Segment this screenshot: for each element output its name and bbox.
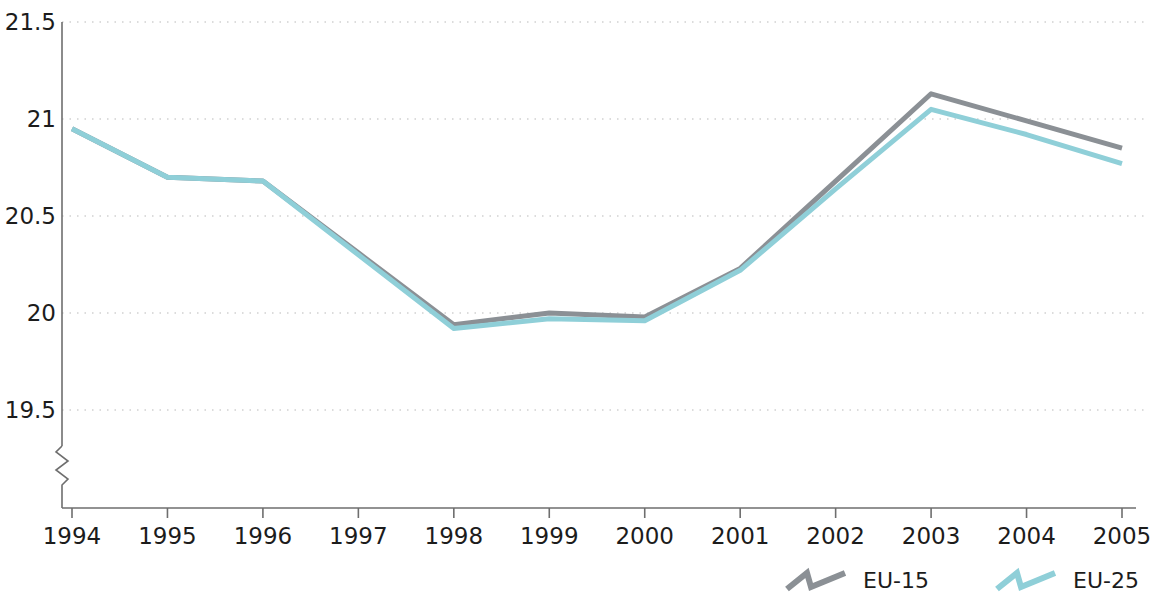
y-axis-tick-label: 20 xyxy=(27,302,56,325)
x-axis-tick-label: 2000 xyxy=(600,525,690,548)
series-line-eu-25 xyxy=(72,109,1122,328)
x-axis-tick-label: 1999 xyxy=(504,525,594,548)
y-axis-tick-label: 19.5 xyxy=(5,399,56,422)
x-axis-tick-label: 2004 xyxy=(982,525,1072,548)
x-axis-tick-label: 2003 xyxy=(886,525,976,548)
legend-marker-eu-15 xyxy=(785,565,847,594)
x-axis-tick-label: 1996 xyxy=(218,525,308,548)
axes xyxy=(56,22,1136,518)
legend-label-eu-25: EU-25 xyxy=(1073,570,1139,592)
x-axis-ticks xyxy=(72,508,1122,518)
x-axis-tick-label: 1998 xyxy=(409,525,499,548)
series-lines xyxy=(72,94,1122,329)
legend-label-eu-15: EU-15 xyxy=(863,570,929,592)
x-axis-tick-label: 2002 xyxy=(791,525,881,548)
x-axis-tick-label: 1994 xyxy=(27,525,117,548)
y-axis-tick-label: 21.5 xyxy=(5,11,56,34)
legend-item-eu-15[interactable]: EU-15 xyxy=(785,565,985,594)
axis-break-icon xyxy=(56,446,68,508)
legend-marker-eu-25 xyxy=(995,565,1057,594)
y-axis-tick-label: 21 xyxy=(27,108,56,131)
y-axis-tick-label: 20.5 xyxy=(5,205,56,228)
x-axis-tick-label: 1995 xyxy=(122,525,212,548)
gridlines xyxy=(62,22,1146,410)
series-line-eu-15 xyxy=(72,94,1122,325)
line-chart: 21.52120.52019.5 19941995199619971998199… xyxy=(0,0,1152,594)
x-axis-tick-label: 2001 xyxy=(695,525,785,548)
x-axis-tick-label: 1997 xyxy=(313,525,403,548)
legend-item-eu-25[interactable]: EU-25 xyxy=(995,565,1152,594)
x-axis-tick-label: 2005 xyxy=(1077,525,1152,548)
chart-canvas xyxy=(0,0,1152,594)
